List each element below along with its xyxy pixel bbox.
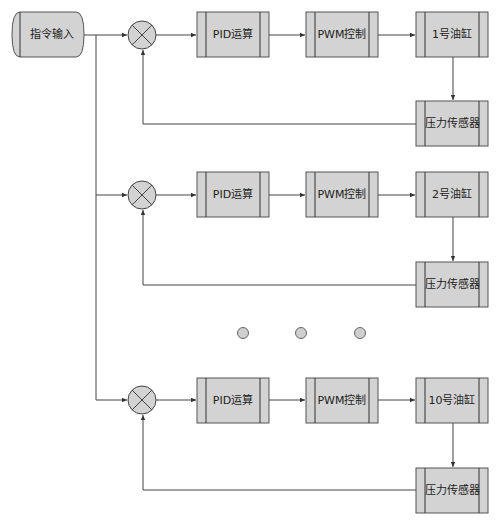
pid-block: PID运算 xyxy=(197,378,269,423)
pwm-block: PWM控制 xyxy=(306,378,378,423)
pwm-block: PWM控制 xyxy=(306,172,378,217)
input-distribution-lines xyxy=(84,35,127,400)
feedback-line xyxy=(143,210,416,285)
cylinder-block: 2号油缸 xyxy=(416,172,488,217)
cylinder-label: 2号油缸 xyxy=(432,187,472,201)
pwm-label: PWM控制 xyxy=(317,393,366,407)
pid-block: PID运算 xyxy=(197,12,269,57)
channel-1: PID运算 PWM控制 1号油缸 压力传感器 xyxy=(128,12,488,146)
ellipsis-dots xyxy=(238,328,366,339)
pwm-block: PWM控制 xyxy=(306,12,378,57)
pid-block: PID运算 xyxy=(197,172,269,217)
pid-label: PID运算 xyxy=(213,27,253,41)
cylinder-label: 1号油缸 xyxy=(432,27,472,41)
sensor-label: 压力传感器 xyxy=(425,117,480,130)
summing-junction-icon xyxy=(128,181,156,209)
summing-junction-icon xyxy=(128,386,156,414)
channel-2: PID运算 PWM控制 2号油缸 压力传感器 xyxy=(128,172,488,307)
summing-junction-icon xyxy=(128,21,156,49)
ellipsis-dot-icon xyxy=(355,328,366,339)
pid-label: PID运算 xyxy=(213,187,253,201)
pwm-label: PWM控制 xyxy=(317,27,366,41)
channel-10: PID运算 PWM控制 10号油缸 压力传感器 xyxy=(128,378,488,513)
pid-label: PID运算 xyxy=(213,393,253,407)
feedback-line xyxy=(143,50,416,124)
cylinder-block: 1号油缸 xyxy=(416,12,488,57)
cylinder-label: 10号油缸 xyxy=(429,393,476,407)
pressure-sensor-block: 压力传感器 xyxy=(416,101,488,146)
pwm-label: PWM控制 xyxy=(317,187,366,201)
command-input-label: 指令输入 xyxy=(30,27,74,41)
sensor-label: 压力传感器 xyxy=(425,484,480,497)
sensor-label: 压力传感器 xyxy=(425,278,480,291)
ellipsis-dot-icon xyxy=(238,328,249,339)
feedback-line xyxy=(143,415,416,490)
pressure-sensor-block: 压力传感器 xyxy=(416,468,488,513)
cylinder-block: 10号油缸 xyxy=(416,378,488,423)
pressure-sensor-block: 压力传感器 xyxy=(416,262,488,307)
ellipsis-dot-icon xyxy=(296,328,307,339)
control-block-diagram: 指令输入 PID运算 PWM控制 xyxy=(0,0,501,524)
command-input-block: 指令输入 xyxy=(12,12,84,57)
